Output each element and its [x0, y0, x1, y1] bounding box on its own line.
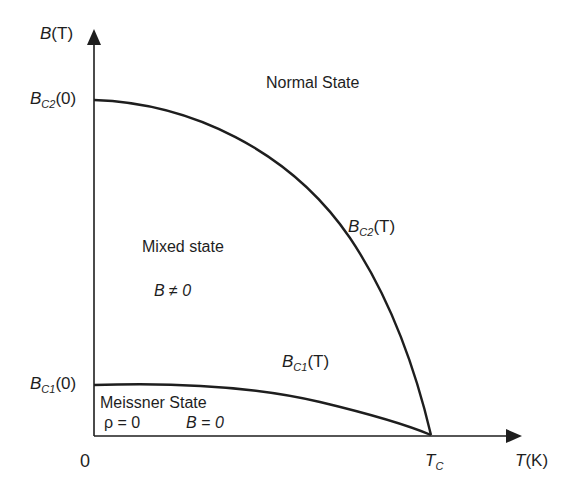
- origin-label: 0: [80, 452, 90, 470]
- bc2-zero-arg: (0): [55, 89, 76, 108]
- meissner-rho-condition: ρ = 0: [104, 415, 140, 431]
- meissner-b-condition: B = 0: [186, 415, 224, 431]
- bc1-zero-arg: (0): [55, 374, 76, 393]
- y-axis-arrow-icon: [87, 29, 101, 45]
- bc2-zero-symbol: B: [30, 89, 41, 108]
- x-axis-label: T(K): [515, 452, 548, 469]
- mixed-condition-text: B ≠ 0: [154, 282, 191, 299]
- bc1-curve-subscript: C1: [293, 361, 307, 373]
- x-axis-unit: (K): [525, 451, 548, 470]
- bc1-curve-label: BC1(T): [282, 353, 329, 370]
- bc1-zero-subscript: C1: [41, 383, 55, 395]
- bc2-zero-subscript: C2: [41, 98, 55, 110]
- mixed-state-condition: B ≠ 0: [154, 283, 191, 299]
- bc1-zero-label: BC1(0): [30, 375, 76, 392]
- bc2-curve-subscript: C2: [359, 226, 373, 238]
- meissner-state-label: Meissner State: [100, 395, 207, 411]
- x-axis-symbol: T: [515, 451, 525, 470]
- bc2-zero-label: BC2(0): [30, 90, 76, 107]
- tc-symbol: T: [425, 451, 435, 470]
- normal-state-label: Normal State: [266, 75, 359, 91]
- bc1-zero-symbol: B: [30, 374, 41, 393]
- bc2-curve-symbol: B: [348, 217, 359, 236]
- bc2-curve-label: BC2(T): [348, 218, 395, 235]
- tc-subscript: C: [435, 460, 443, 472]
- y-axis-symbol: B: [40, 24, 51, 43]
- bc2-curve-arg: (T): [373, 217, 395, 236]
- bc1-curve-symbol: B: [282, 352, 293, 371]
- bc1-curve-arg: (T): [307, 352, 329, 371]
- y-axis-label: B(T): [40, 25, 73, 42]
- mixed-state-label: Mixed state: [142, 239, 224, 255]
- tc-label: TC: [425, 452, 443, 469]
- y-axis-unit: (T): [51, 24, 73, 43]
- x-axis-arrow-icon: [506, 429, 522, 443]
